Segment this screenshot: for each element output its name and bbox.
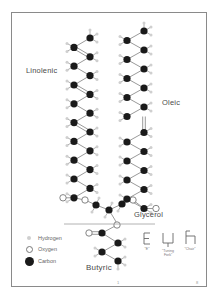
carbon-atom <box>123 113 130 120</box>
carbon-atom <box>70 175 77 182</box>
carbon-atom <box>86 53 93 60</box>
oxygen-atom <box>82 197 88 203</box>
hydrogen-atom <box>66 80 69 83</box>
carbon-atom <box>140 46 147 53</box>
hydrogen-atom <box>66 61 69 64</box>
carbon-atom <box>86 72 93 79</box>
hydrogen-atom <box>119 156 122 159</box>
hydrogen-atom <box>150 135 153 138</box>
carbon-atom <box>70 194 77 201</box>
hydrogen-atom <box>96 153 99 156</box>
hydrogen-atom <box>96 41 99 44</box>
hydrogen-atom <box>96 164 99 167</box>
hydrogen-atom <box>66 117 69 120</box>
chair-icon <box>186 231 195 244</box>
hydrogen-atom <box>124 238 127 241</box>
hydrogen-atom <box>66 182 69 185</box>
carbon-atom <box>140 27 147 34</box>
carbon-atom <box>123 75 130 82</box>
hydrogen-atom <box>150 146 153 149</box>
e-shape-label: "E" <box>140 247 154 251</box>
hydrogen-atom <box>150 110 153 113</box>
hydrogen-atom <box>91 211 94 214</box>
hydrogen-atom <box>104 216 107 219</box>
hydrogen-atom <box>119 119 122 122</box>
hydrogen-atom <box>119 194 122 197</box>
carbon-atom <box>140 129 147 136</box>
carbon-atom <box>123 138 130 145</box>
hydrogen-atom <box>150 64 153 67</box>
hydrogen-atom <box>119 175 122 178</box>
hydrogen-atom <box>94 247 97 250</box>
legend-oxygen: Oxygen <box>24 244 57 254</box>
hydrogen-atom <box>150 102 153 105</box>
carbon-atom <box>123 94 130 101</box>
hydrogen-atom <box>96 127 99 130</box>
hydrogen-atom <box>119 164 122 167</box>
carbon-atom <box>98 229 105 236</box>
hydrogen-atom <box>143 22 146 25</box>
hydrogen-atom <box>124 264 127 267</box>
carbon-atom <box>123 56 130 63</box>
hydrogen-atom <box>150 91 153 94</box>
hydrogen-atom <box>124 246 127 249</box>
hydrogen-atom <box>96 108 99 111</box>
carbon-atom <box>86 128 93 135</box>
hydrogen-atom <box>96 172 99 175</box>
hydrogen-atom <box>96 70 99 73</box>
e-shape-icon <box>144 233 150 244</box>
hydrogen-atom <box>66 106 69 109</box>
tuning-fork-label: "Tuning Fork" <box>160 249 176 257</box>
legend-hydrogen: Hydrogen <box>24 233 62 243</box>
hydrogen-atom <box>117 210 120 213</box>
oxygen-atom <box>130 197 136 203</box>
center-mark: 1 <box>117 280 119 285</box>
hydrogen-atom <box>96 116 99 119</box>
butyric-label: Butyric <box>86 264 112 272</box>
carbon-atom <box>70 63 77 70</box>
carbon-atom <box>86 147 93 154</box>
hydrogen-atom <box>150 34 153 37</box>
carbon-atom <box>70 100 77 107</box>
hydrogen-atom <box>66 50 69 53</box>
carbon-atom <box>140 65 147 72</box>
oxygen-atom <box>86 230 92 236</box>
carbon-atom <box>140 186 147 193</box>
hydrogen-atom <box>150 154 153 157</box>
tuning-fork-icon <box>163 233 173 247</box>
carbon-atom <box>70 138 77 145</box>
hydrogen-atom <box>119 81 122 84</box>
hydrogen-atom <box>89 29 92 32</box>
carbon-atom <box>98 248 105 255</box>
hydrogen-atom <box>150 45 153 48</box>
carbon-atom <box>86 110 93 117</box>
carbon-atom <box>70 44 77 51</box>
hydrogen-atom <box>66 98 69 101</box>
hydrogen-atom <box>96 59 99 62</box>
hydrogen-atom <box>66 42 69 45</box>
hydrogen-atom <box>96 135 99 138</box>
legend-carbon: Carbon <box>24 256 56 266</box>
glycerol-label: Glycerol <box>134 211 163 219</box>
hydrogen-atom <box>150 72 153 75</box>
carbon-icon <box>25 257 34 266</box>
hydrogen-atom <box>150 203 153 206</box>
oleic-label: Oleic <box>162 99 180 107</box>
hydrogen-atom <box>150 26 153 29</box>
carbon-atom <box>86 166 93 173</box>
hydrogen-atom <box>119 54 122 57</box>
hydrogen-atom <box>119 137 122 140</box>
hydrogen-icon <box>27 236 31 240</box>
hydrogen-atom <box>66 69 69 72</box>
hydrogen-atom <box>66 174 69 177</box>
carbon-atom <box>70 157 77 164</box>
carbon-atom <box>140 103 147 110</box>
hydrogen-atom <box>117 268 120 271</box>
hydrogen-atom <box>96 183 99 186</box>
linolenic-label: Linolenic <box>26 67 57 75</box>
chair-label: "Chair" <box>182 247 198 251</box>
hydrogen-atom <box>119 183 122 186</box>
hydrogen-atom <box>66 136 69 139</box>
hydrogen-atom <box>119 62 122 65</box>
hydrogen-atom <box>66 125 69 128</box>
